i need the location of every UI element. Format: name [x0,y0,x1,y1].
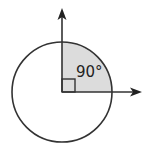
angle-diagram: 90° [0,0,149,155]
angle-label: 90° [76,63,103,81]
